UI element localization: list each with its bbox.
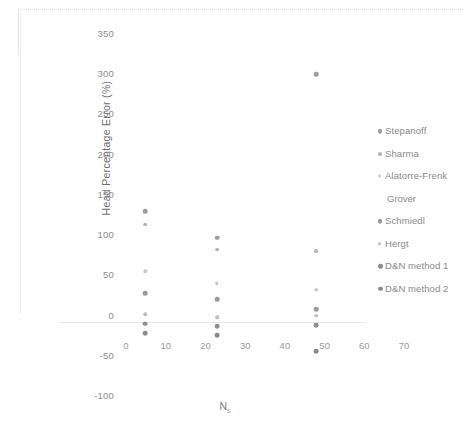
y-axis-tick-label: 200	[74, 149, 114, 160]
y-axis-tick-label: 50	[74, 269, 114, 280]
legend-marker-icon	[376, 233, 385, 256]
data-point	[314, 307, 319, 312]
y-axis-tick-label: 350	[74, 28, 114, 39]
data-point	[215, 324, 220, 329]
legend-marker-icon	[376, 120, 385, 143]
legend-item-label: Sharma	[385, 143, 419, 166]
y-axis-tick-label: 250	[74, 108, 114, 119]
data-point	[314, 323, 319, 328]
legend-item-label: D&N method 2	[385, 278, 449, 301]
legend-item-label: Stepanoff	[385, 120, 426, 143]
data-point	[215, 248, 219, 252]
y-axis-tick-label: 100	[74, 229, 114, 240]
y-axis-tick-label: 150	[74, 189, 114, 200]
legend-marker-icon	[376, 278, 385, 301]
legend-marker-icon	[376, 143, 385, 166]
y-axis-tick-label: 300	[74, 68, 114, 79]
legend-item-label: Schmiedl	[385, 210, 425, 233]
legend-item-label: Hergt	[385, 233, 409, 256]
data-point	[144, 312, 148, 316]
x-axis-tick-label: 10	[160, 340, 171, 351]
legend-item-label: Alatorre-Frenk	[385, 165, 447, 188]
data-point	[314, 72, 319, 77]
data-point	[143, 209, 148, 214]
legend-marker-icon	[376, 165, 385, 188]
legend-item[interactable]: D&N method 1	[376, 255, 468, 278]
scatter-chart-figure: Head Percentage Error (%) Ns 35030025020…	[0, 0, 469, 430]
data-point	[143, 331, 148, 336]
x-axis-tick-label: 50	[319, 340, 330, 351]
data-point	[215, 315, 219, 319]
x-axis-title-subscript: s	[227, 407, 231, 414]
legend-item[interactable]: Sharma	[376, 143, 468, 166]
x-axis-tick-label: 0	[123, 340, 128, 351]
x-axis-tick-label: 30	[240, 340, 251, 351]
x-axis-tick-label: 40	[280, 340, 291, 351]
data-point	[314, 249, 318, 253]
legend-item[interactable]: D&N method 2	[376, 278, 468, 301]
legend-item[interactable]: Hergt	[376, 233, 468, 256]
x-axis-tick-label: 70	[399, 340, 410, 351]
data-point	[215, 297, 220, 302]
legend-marker-icon	[376, 255, 385, 278]
legend-item-label: D&N method 1	[385, 255, 449, 278]
data-point	[314, 349, 319, 354]
y-axis-tick-label: -100	[74, 390, 114, 401]
y-axis-tick-label: -50	[74, 350, 114, 361]
data-point	[143, 291, 148, 296]
y-axis-tick-label: 0	[74, 310, 114, 321]
x-axis-tick-label: 20	[200, 340, 211, 351]
x-axis-title-main: N	[219, 400, 227, 412]
x-axis-tick-label: 60	[359, 340, 370, 351]
plot-area: Head Percentage Error (%) Ns 35030025020…	[60, 14, 365, 385]
legend-item[interactable]: Alatorre-Frenk	[376, 165, 468, 188]
figure-border-left	[18, 9, 19, 54]
y-axis-ticks: 350300250200150100500-50-100	[68, 14, 114, 385]
legend-marker-icon	[376, 210, 385, 233]
data-point	[215, 235, 220, 240]
legend-item[interactable]: Schmiedl	[376, 210, 468, 233]
figure-border-left-inner	[20, 14, 21, 314]
data-point	[143, 321, 148, 326]
data-point	[215, 332, 220, 337]
legend-item[interactable]: Stepanoff	[376, 120, 468, 143]
x-axis-title: Ns	[60, 400, 390, 414]
chart-legend: StepanoffSharmaAlatorre-FrenkGroverSchmi…	[376, 120, 468, 300]
data-point	[144, 223, 148, 227]
legend-item-label-continued: Grover	[376, 188, 468, 211]
figure-border-top	[18, 9, 463, 10]
data-point	[314, 314, 318, 318]
